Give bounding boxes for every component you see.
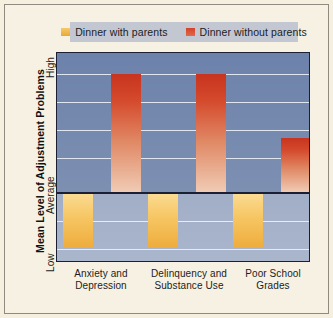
average-baseline [57, 192, 309, 194]
bar-with-parents-poor-school-grades [233, 193, 263, 248]
legend-item-dinner-without-parents: Dinner without parents [186, 26, 307, 38]
bar-without-parents-poor-school-grades [281, 138, 310, 192]
x-tick-line: Substance Use [140, 280, 238, 292]
bar-without-parents-delinquency-and-substance-use [196, 74, 226, 192]
legend-item-dinner-with-parents: Dinner with parents [61, 26, 167, 38]
y-tick-low: Low [45, 253, 56, 272]
x-tick-line: Delinquency and [140, 268, 238, 280]
x-tick-line: Depression [58, 280, 144, 292]
x-tick-line: Anxiety and [58, 268, 144, 280]
plot-area [56, 52, 310, 262]
red-swatch-icon [186, 28, 195, 36]
gridline [57, 158, 309, 159]
x-tick-anxiety-and-depression: Anxiety and Depression [58, 268, 144, 292]
y-tick-high: High [45, 57, 56, 78]
chart-legend: Dinner with parents Dinner without paren… [70, 22, 298, 42]
gridline [57, 221, 309, 222]
x-tick-delinquency-and-substance-use: Delinquency and Substance Use [140, 268, 238, 292]
plot-band-below-average [57, 193, 309, 262]
legend-label-without-parents: Dinner without parents [200, 26, 307, 38]
orange-swatch-icon [61, 28, 70, 36]
y-axis-title: Mean Level of Adjustment Problems [34, 61, 46, 261]
bar-with-parents-delinquency-and-substance-use [148, 193, 178, 248]
gridline [57, 74, 309, 75]
x-tick-line: Poor School [234, 268, 312, 280]
gridline [57, 102, 309, 103]
chart-figure: Dinner with parents Dinner without paren… [0, 0, 333, 318]
gridline [57, 249, 309, 250]
legend-label-with-parents: Dinner with parents [75, 26, 167, 38]
gridline [57, 130, 309, 131]
x-tick-line: Grades [234, 280, 312, 292]
x-tick-poor-school-grades: Poor School Grades [234, 268, 312, 292]
bar-with-parents-anxiety-and-depression [63, 193, 93, 248]
y-tick-average: Average [45, 176, 56, 214]
bar-without-parents-anxiety-and-depression [111, 74, 141, 192]
